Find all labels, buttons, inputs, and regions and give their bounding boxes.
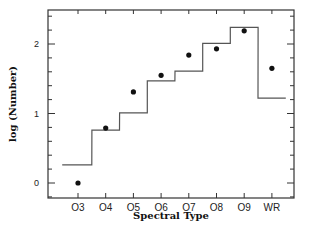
- x-tick-label: O3: [71, 202, 85, 213]
- x-axis-ticks: O3O4O5O6O7O8O9WR: [71, 10, 280, 213]
- y-tick-label: 1: [34, 109, 39, 119]
- data-point: [242, 28, 247, 33]
- data-point: [103, 125, 108, 130]
- data-points: [75, 28, 274, 185]
- x-axis-title: Spectral Type: [133, 210, 209, 221]
- y-axis-title: log (Number): [7, 66, 18, 142]
- data-point: [186, 53, 191, 58]
- data-point: [75, 180, 80, 185]
- y-axis-ticks: 012: [34, 16, 294, 197]
- y-tick-label: 2: [34, 39, 39, 49]
- chart: 012 O3O4O5O6O7O8O9WR Spectral Type log (…: [0, 0, 309, 225]
- x-tick-label: O9: [238, 202, 252, 213]
- data-point: [269, 66, 274, 71]
- histogram-step-line: [62, 27, 286, 165]
- x-tick-label: WR: [264, 202, 281, 213]
- data-point: [214, 46, 219, 51]
- data-point: [159, 73, 164, 78]
- y-tick-label: 0: [34, 178, 39, 188]
- x-tick-label: O8: [210, 202, 224, 213]
- plot-frame: [48, 10, 294, 198]
- x-tick-label: O4: [99, 202, 113, 213]
- data-point: [131, 89, 136, 94]
